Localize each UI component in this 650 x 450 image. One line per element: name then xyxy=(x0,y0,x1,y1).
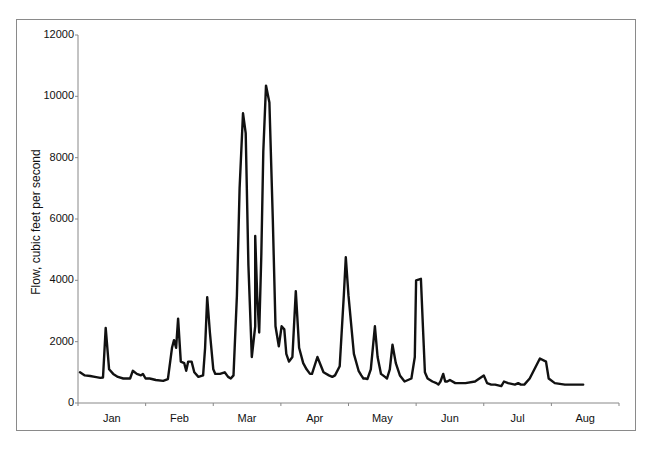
x-tick-label: Jan xyxy=(82,412,142,424)
y-tick-label: 12000 xyxy=(14,28,74,40)
x-tick-label: Feb xyxy=(149,412,209,424)
y-tick-label: 2000 xyxy=(14,335,74,347)
flow-line-chart xyxy=(0,0,650,450)
y-tick-label: 4000 xyxy=(14,273,74,285)
x-tick-label: Aug xyxy=(555,412,615,424)
y-axis-label: Flow, cubic feet per second xyxy=(29,149,43,294)
x-tick-label: Jul xyxy=(488,412,548,424)
y-tick-label: 6000 xyxy=(14,212,74,224)
x-tick-label: Jun xyxy=(420,412,480,424)
y-tick-label: 10000 xyxy=(14,89,74,101)
x-tick-label: May xyxy=(352,412,412,424)
x-tick-label: Apr xyxy=(285,412,345,424)
y-tick-label: 0 xyxy=(14,396,74,408)
y-tick-label: 8000 xyxy=(14,151,74,163)
x-tick-label: Mar xyxy=(217,412,277,424)
flow-series-line xyxy=(80,86,583,387)
